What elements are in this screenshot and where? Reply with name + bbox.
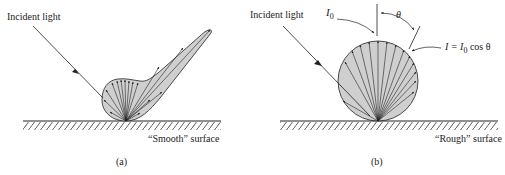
i0-subscript: 0 [330,12,334,21]
incident-light-label-a: Incident light [7,12,61,22]
specular-lobe [102,30,211,121]
formula-leader [412,47,441,51]
panel-b-figure [280,4,498,130]
incident-arrowhead-b [314,60,322,66]
angle-line [409,26,420,49]
caption-b: (b) [371,157,383,167]
i0-label: I0 [326,7,334,21]
i0-leader [337,19,374,33]
rough-surface-hatching [280,122,498,130]
formula-rhs: cos θ [467,41,490,52]
incident-light-label-b: Incident light [250,10,304,20]
rough-surface-label: “Rough” surface [435,134,502,144]
theta-label: θ [396,10,401,20]
caption-a: (a) [116,157,127,167]
cosine-law-formula: I = I0 cos θ [445,42,491,55]
smooth-surface-label: “Smooth” surface [148,134,219,144]
diagram-canvas [0,0,505,175]
smooth-surface-hatching [23,122,221,130]
panel-a-figure [23,26,221,130]
formula-lhs: I = I [445,41,463,52]
incident-light-ray-a [33,26,103,98]
incident-arrowhead-a [72,69,79,74]
